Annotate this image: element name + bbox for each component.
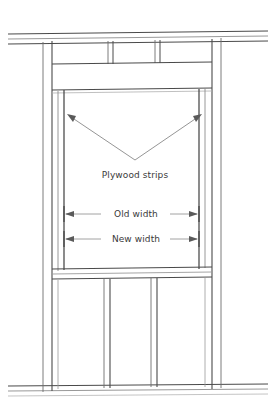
diagram-background: [0, 0, 275, 411]
plywood-strips-label: Plywood strips: [102, 170, 169, 180]
new-width-label: New width: [112, 234, 160, 244]
framing-diagram-canvas: Plywood strips Old width New width: [0, 0, 275, 411]
old-width-label: Old width: [114, 209, 158, 219]
framing-diagram: Plywood strips Old width New width: [0, 0, 275, 411]
